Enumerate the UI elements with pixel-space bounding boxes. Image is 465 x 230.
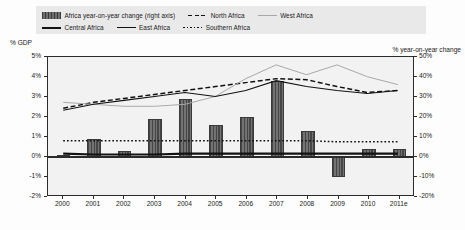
y-axis-tick-right: 30% (419, 92, 432, 99)
y-axis-tick-right: -20% (419, 192, 434, 199)
legend-label: West Africa (280, 12, 313, 19)
x-axis-tick: 2003 (147, 200, 162, 207)
x-axis-tick: 2010 (361, 200, 376, 207)
chart-figure: Africa year-on-year change (right axis) … (0, 0, 465, 230)
x-axis-tick: 2001 (86, 200, 101, 207)
plot-inner (48, 57, 413, 195)
x-axis-tick: 2008 (300, 200, 315, 207)
legend-row-2: Central Africa East Africa Southern Afri… (42, 21, 422, 33)
y-axis-tick-left: 4% (0, 72, 41, 79)
y-axis-tick-left: 3% (0, 92, 41, 99)
legend-item-west-africa: West Africa (258, 11, 313, 20)
y-tick-mark-right (414, 96, 417, 97)
legend-label: North Africa (211, 12, 245, 19)
x-tick-mark (123, 196, 124, 199)
x-tick-mark (368, 196, 369, 199)
x-tick-mark (276, 196, 277, 199)
x-axis-tick: 2011e (390, 200, 408, 207)
y-axis-tick-right: 40% (419, 72, 432, 79)
x-axis-tick: 2004 (177, 200, 192, 207)
x-axis-tick: 2007 (269, 200, 284, 207)
x-tick-mark (246, 196, 247, 199)
legend-label: East Africa (139, 24, 170, 31)
x-tick-mark (399, 196, 400, 199)
line-series-southern-africa (63, 141, 398, 142)
y-axis-tick-right: 50% (419, 52, 432, 59)
line-series-layer (48, 57, 413, 195)
legend-item-africa-yoy: Africa year-on-year change (right axis) (42, 11, 175, 19)
dotted-line-swatch-icon (183, 23, 202, 32)
legend-row-1: Africa year-on-year change (right axis) … (42, 9, 422, 21)
thin-solid-line-swatch-icon (117, 23, 136, 32)
legend-item-north-africa: North Africa (188, 11, 245, 20)
legend-item-southern-africa: Southern Africa (183, 23, 250, 32)
legend-label: Central Africa (65, 24, 104, 31)
y-tick-mark-right (414, 56, 417, 57)
y-tick-mark-right (414, 116, 417, 117)
y-tick-mark-right (414, 136, 417, 137)
plot-area (47, 56, 414, 196)
x-axis-tick: 2000 (55, 200, 70, 207)
line-series-west-africa (63, 65, 398, 106)
y-axis-tick-right: 0% (419, 152, 429, 159)
left-axis-caption: % GDP (10, 39, 32, 46)
x-tick-mark (338, 196, 339, 199)
x-tick-mark (307, 196, 308, 199)
y-tick-mark-right (414, 196, 417, 197)
y-axis-tick-right: 10% (419, 132, 432, 139)
x-axis-tick: 2009 (330, 200, 345, 207)
legend-item-central-africa: Central Africa (42, 23, 104, 32)
y-axis-tick-left: 0% (0, 152, 41, 159)
x-axis-tick: 2006 (238, 200, 253, 207)
light-solid-line-swatch-icon (258, 11, 277, 20)
y-tick-mark-left (44, 196, 47, 197)
x-axis-tick: 2002 (116, 200, 131, 207)
x-tick-mark (154, 196, 155, 199)
x-tick-mark (62, 196, 63, 199)
legend-item-east-africa: East Africa (117, 23, 171, 32)
x-axis-tick: 2005 (208, 200, 223, 207)
bar-swatch-icon (42, 12, 61, 19)
y-axis-tick-left: -2% (0, 192, 41, 199)
legend-label: Africa year-on-year change (right axis) (65, 12, 176, 19)
x-tick-mark (185, 196, 186, 199)
legend-label: Southern Africa (206, 24, 250, 31)
x-tick-mark (215, 196, 216, 199)
y-axis-tick-right: 20% (419, 112, 432, 119)
y-tick-mark-right (414, 156, 417, 157)
chart-legend: Africa year-on-year change (right axis) … (36, 6, 426, 34)
y-tick-mark-right (414, 176, 417, 177)
y-axis-tick-left: 1% (0, 132, 41, 139)
y-axis-tick-right: -10% (419, 172, 434, 179)
y-tick-mark-right (414, 76, 417, 77)
y-axis-tick-left: 5% (0, 52, 41, 59)
x-tick-mark (93, 196, 94, 199)
thick-solid-line-swatch-icon (42, 23, 61, 32)
dashed-line-swatch-icon (188, 11, 207, 20)
line-series-central-africa (63, 154, 398, 155)
y-axis-tick-left: 2% (0, 112, 41, 119)
y-axis-tick-left: -1% (0, 172, 41, 179)
